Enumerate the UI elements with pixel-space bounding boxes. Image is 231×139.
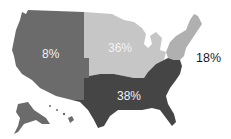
label-midwest: 36%: [108, 42, 132, 54]
label-northeast: 18%: [196, 52, 221, 64]
region-hawaii-3: [63, 113, 65, 115]
region-hawaii-4: [68, 116, 74, 123]
us-region-map: 8% 36% 18% 38%: [0, 0, 231, 139]
region-hawaii-2: [56, 109, 58, 111]
label-west: 8%: [42, 48, 59, 60]
region-hawaii-1: [49, 105, 51, 107]
region-alaska: [14, 102, 50, 134]
map-svg: [0, 0, 231, 139]
label-south: 38%: [117, 90, 141, 102]
